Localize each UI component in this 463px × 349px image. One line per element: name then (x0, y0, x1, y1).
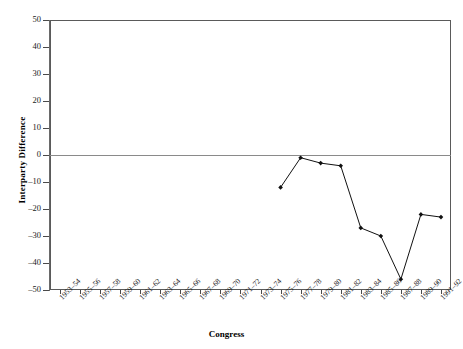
y-axis-tick (43, 74, 49, 75)
y-axis-tick-label: 10 (0, 123, 41, 132)
y-axis-tick (43, 236, 49, 237)
y-axis-tick-label: –10 (0, 177, 41, 186)
y-axis-tick (43, 209, 49, 210)
y-axis-tick-label: 40 (0, 42, 41, 51)
y-axis-tick-label: –20 (0, 204, 41, 213)
y-axis-tick-label: 50 (0, 15, 41, 24)
y-axis-tick-label: 20 (0, 96, 41, 105)
y-axis-tick-label: –30 (0, 231, 41, 240)
y-axis-tick (43, 263, 49, 264)
y-axis-line (49, 20, 50, 291)
y-axis-tick (43, 20, 49, 21)
y-axis-tick-label: –50 (0, 285, 41, 294)
y-axis-tick (43, 47, 49, 48)
y-axis-tick (43, 182, 49, 183)
y-axis-tick-label: –40 (0, 258, 41, 267)
x-axis-title-text: Congress (209, 329, 244, 339)
y-axis-tick (43, 101, 49, 102)
y-axis-tick (43, 128, 49, 129)
y-axis-tick (43, 155, 49, 156)
y-axis-tick-label: 0 (0, 150, 41, 159)
y-axis-tick (43, 290, 49, 291)
x-axis-title: Congress (0, 329, 461, 339)
y-axis-tick-label: 30 (0, 69, 41, 78)
zero-reference-line (50, 155, 451, 156)
